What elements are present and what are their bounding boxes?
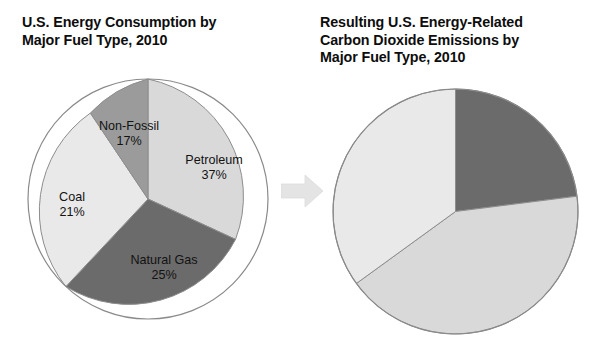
slice-label-natural-gas: Natural Gas 25% [105, 253, 223, 283]
two-pie-chart-figure: U.S. Energy Consumption by Major Fuel Ty… [0, 0, 603, 349]
left-chart-panel: U.S. Energy Consumption by Major Fuel Ty… [0, 0, 300, 349]
slice-label-petroleum: Petroleum 37% [160, 153, 268, 183]
co2-emissions-pie [332, 88, 579, 335]
slice-label-coal: Coal 21% [33, 190, 111, 220]
pie-slice-natural-gas [456, 89, 578, 212]
co2-emissions-pie-svg [332, 88, 579, 335]
slice-label-non-fossil: Non-Fossil 17% [74, 119, 184, 149]
left-chart-title: U.S. Energy Consumption by Major Fuel Ty… [22, 14, 284, 49]
right-chart-panel: Resulting U.S. Energy-Related Carbon Dio… [300, 0, 603, 349]
right-chart-title: Resulting U.S. Energy-Related Carbon Dio… [320, 14, 595, 67]
